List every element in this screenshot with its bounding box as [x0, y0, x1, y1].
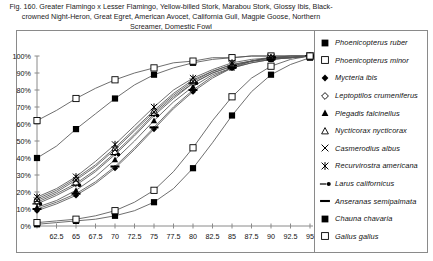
legend-item[interactable]: Plegadis falcinellus — [319, 104, 427, 122]
legend-item[interactable]: Larus californicus — [319, 175, 427, 193]
marker-filled-square — [151, 72, 157, 78]
legend-item[interactable]: Chauna chavaria — [319, 210, 427, 228]
x-tick-label: 65 — [72, 232, 80, 241]
legend-item-label: Anseranas semipalmata — [335, 197, 416, 206]
marker-open-square — [268, 63, 274, 69]
y-tick-label: 70% — [17, 103, 32, 112]
marker-star-x — [322, 162, 329, 170]
legend-marker-filled-triangle-icon — [319, 107, 335, 119]
legend-item-label: Phoenicopterus minor — [335, 56, 409, 65]
legend-item[interactable]: Recurvirostra americana — [319, 157, 427, 175]
marker-open-diamond — [322, 92, 329, 99]
marker-filled-square — [73, 126, 79, 132]
legend-item[interactable]: Casmerodius albus — [319, 140, 427, 158]
y-tick-label: 60% — [17, 120, 32, 129]
marker-filled-square — [322, 215, 329, 222]
x-tick-label: 90 — [267, 232, 275, 241]
marker-open-square — [307, 53, 313, 59]
marker-open-square — [34, 118, 40, 124]
figure-root: Fig. 160. Greater Flamingo x Lesser Flam… — [0, 0, 433, 261]
marker-filled-square — [112, 95, 118, 101]
x-tick-label: 67.5 — [89, 232, 103, 241]
y-tick-label: 50% — [17, 137, 32, 146]
legend-marker-open-triangle-icon — [319, 125, 335, 137]
series-line — [37, 56, 310, 211]
legend-marker-open-square-icon — [319, 54, 335, 66]
marker-open-square — [190, 145, 196, 151]
marker-star-x — [112, 141, 118, 148]
legend-item-label: Leptoptilos crumeniferus — [335, 91, 418, 100]
chart-axes: 0%10%20%30%40%50%60%70%80%90%100%62.5656… — [13, 52, 314, 241]
legend-marker-cross-x-icon — [319, 142, 335, 154]
y-tick-label: 40% — [17, 154, 32, 163]
marker-open-square — [151, 65, 157, 71]
marker-star-x — [151, 103, 157, 110]
marker-open-square — [229, 94, 235, 100]
marker-open-square — [73, 95, 79, 101]
chart-legend: Phoenicopterus ruberPhoenicopterus minor… — [314, 31, 427, 252]
legend-item[interactable]: Phoenicopterus ruber — [319, 34, 427, 52]
legend-marker-heavy-dash-icon — [319, 195, 335, 207]
marker-filled-diamond — [322, 75, 329, 82]
legend-item-label: Plegadis falcinellus — [335, 109, 400, 118]
marker-filled-square — [268, 72, 274, 78]
x-tick-label: 70 — [111, 232, 119, 241]
x-tick-label: 75 — [150, 232, 158, 241]
y-tick-label: 20% — [17, 188, 32, 197]
series-line — [37, 58, 310, 225]
marker-open-square — [322, 233, 329, 240]
marker-open-square — [73, 216, 79, 222]
x-tick-label: 92.5 — [284, 232, 298, 241]
legend-item-label: Larus californicus — [335, 179, 394, 188]
legend-item[interactable]: Leptoptilos crumeniferus — [319, 87, 427, 105]
legend-marker-open-diamond-icon — [319, 90, 335, 102]
marker-open-square — [190, 58, 196, 64]
legend-marker-open-square-icon — [319, 230, 335, 242]
legend-item[interactable]: Anseranas semipalmata — [319, 192, 427, 210]
x-tick-label: 85 — [228, 232, 236, 241]
marker-open-square — [151, 187, 157, 193]
legend-item-label: Chauna chavaria — [335, 214, 392, 223]
legend-item-label: Mycteria ibis — [335, 73, 377, 82]
legend-item[interactable]: Gallus gallus — [319, 228, 427, 246]
series-chauna-chavaria — [34, 55, 313, 228]
marker-filled-square — [34, 155, 40, 161]
legend-marker-star-x-icon — [319, 160, 335, 172]
y-tick-label: 100% — [13, 52, 32, 61]
marker-filled-triangle — [322, 110, 329, 116]
marker-open-square — [322, 57, 329, 64]
x-tick-label: 80 — [189, 232, 197, 241]
legend-item-label: Recurvirostra americana — [335, 161, 418, 170]
legend-item-label: Gallus gallus — [335, 232, 379, 241]
marker-cross-x — [322, 145, 329, 152]
legend-marker-dash-dot-icon — [319, 178, 335, 190]
legend-marker-filled-square-icon — [319, 213, 335, 225]
marker-filled-square — [190, 165, 196, 171]
series-gallus-gallus — [34, 53, 313, 226]
marker-star-x — [190, 75, 196, 82]
series-line — [37, 56, 310, 223]
x-tick-label: 87.5 — [245, 232, 259, 241]
y-tick-label: 0% — [21, 222, 32, 231]
marker-filled-square — [151, 199, 157, 205]
legend-marker-filled-square-icon — [319, 37, 335, 49]
marker-open-square — [112, 208, 118, 214]
marker-filled-square — [322, 39, 329, 46]
marker-open-triangle — [322, 127, 329, 133]
marker-open-square — [112, 77, 118, 83]
y-tick-label: 90% — [17, 69, 32, 78]
x-tick-label: 82.5 — [206, 232, 220, 241]
legend-item[interactable]: Nycticorax nycticorax — [319, 122, 427, 140]
legend-item-label: Phoenicopterus ruber — [335, 38, 408, 47]
legend-marker-filled-diamond-icon — [319, 72, 335, 84]
x-tick-label: 62.5 — [50, 232, 64, 241]
y-tick-label: 30% — [17, 171, 32, 180]
x-tick-label: 95 — [306, 232, 314, 241]
legend-item-label: Nycticorax nycticorax — [335, 126, 407, 135]
legend-item[interactable]: Mycteria ibis — [319, 69, 427, 87]
marker-open-square — [34, 220, 40, 226]
y-tick-label: 10% — [17, 205, 32, 214]
legend-item[interactable]: Phoenicopterus minor — [319, 52, 427, 70]
y-tick-label: 80% — [17, 86, 32, 95]
marker-star-x — [34, 194, 40, 201]
